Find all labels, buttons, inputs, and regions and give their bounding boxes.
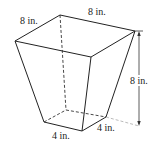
label-top-left-edge: 8 in. <box>20 15 38 26</box>
label-height: 8 in. <box>130 75 148 86</box>
label-bottom-front-edge: 4 in. <box>52 130 70 141</box>
hidden-edges <box>44 15 106 122</box>
arrow-down-icon <box>137 121 140 126</box>
arrow-up-icon <box>137 31 140 36</box>
hidden-back-vertical-edge <box>60 15 66 110</box>
front-side-edge <box>82 57 91 131</box>
left-side-edge <box>15 41 44 122</box>
hidden-bottom-back-edge <box>66 110 106 117</box>
visible-edges <box>15 15 135 131</box>
frustum-diagram: 8 in. 8 in. 8 in. 4 in. 4 in. <box>0 0 153 146</box>
hidden-bottom-left-edge <box>44 110 66 122</box>
label-bottom-right-edge: 4 in. <box>97 122 115 133</box>
right-side-edge <box>106 31 135 117</box>
label-top-back-edge: 8 in. <box>88 6 106 17</box>
